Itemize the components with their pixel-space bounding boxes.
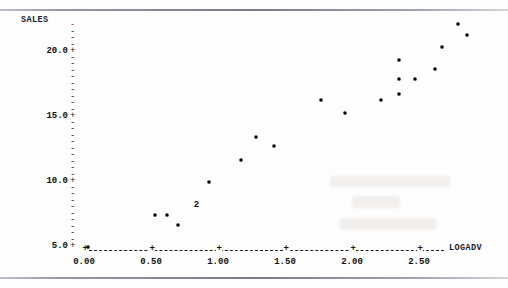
scatter-plot: SALES LOGADV +---------+---------+------… xyxy=(0,0,508,288)
x-axis-tick-label: 0.00 xyxy=(73,258,95,267)
x-axis-tick: + xyxy=(417,245,423,254)
x-axis-line xyxy=(84,250,444,251)
y-axis-tick-label: 20.0 xyxy=(26,47,68,56)
x-axis-tick-label: 2.50 xyxy=(408,258,430,267)
data-point xyxy=(239,159,242,162)
x-axis-tick-label: 1.00 xyxy=(207,258,229,267)
x-axis-tick: + xyxy=(149,245,155,254)
x-axis-tick: + xyxy=(283,245,289,254)
data-point xyxy=(397,92,400,95)
scatterplot-page: SALES LOGADV +---------+---------+------… xyxy=(0,0,508,288)
x-axis: ++++++ xyxy=(78,246,450,256)
data-point xyxy=(176,224,179,227)
data-point xyxy=(380,98,383,101)
data-point xyxy=(87,246,90,249)
y-axis-title: SALES xyxy=(21,15,49,25)
data-point xyxy=(397,59,400,62)
data-point xyxy=(207,181,210,184)
x-axis-tick: + xyxy=(216,245,222,254)
data-point xyxy=(320,98,323,101)
data-point xyxy=(440,46,443,49)
data-point xyxy=(466,34,469,37)
x-axis-tick-label: 1.50 xyxy=(274,258,296,267)
data-point xyxy=(254,136,257,139)
data-point xyxy=(456,23,459,26)
x-axis-tick: + xyxy=(350,245,356,254)
data-point xyxy=(344,112,347,115)
data-point xyxy=(397,77,400,80)
y-axis-tick-label: 10.0 xyxy=(26,177,68,186)
y-axis-minor-tick: - xyxy=(70,21,75,30)
x-axis-title: LOGADV xyxy=(449,243,482,253)
data-point xyxy=(166,213,169,216)
y-axis-tick-label: 15.0 xyxy=(26,112,68,121)
data-point xyxy=(154,213,157,216)
overplot-count-label: 2 xyxy=(194,201,199,210)
x-axis-tick-label: 0.50 xyxy=(140,258,162,267)
data-point xyxy=(413,77,416,80)
data-point xyxy=(434,68,437,71)
data-point xyxy=(273,144,276,147)
y-axis-tick-label: 5.0 xyxy=(26,242,68,251)
x-axis-tick-label: 2.00 xyxy=(341,258,363,267)
